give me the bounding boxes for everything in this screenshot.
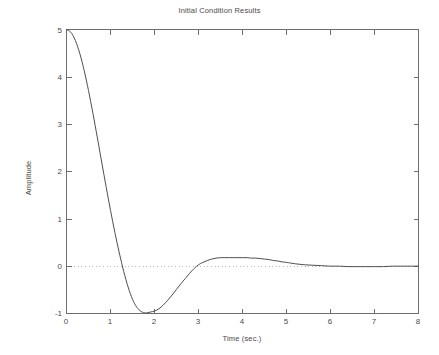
y-axis-ticks-left [67, 30, 72, 314]
y-tick-label: 2 [58, 167, 63, 176]
x-tick-label: 6 [328, 317, 333, 326]
y-tick-label: 4 [58, 73, 63, 82]
x-tick-label: 5 [284, 317, 289, 326]
x-axis-ticks-bottom [67, 309, 419, 314]
y-tick-label: -1 [55, 309, 63, 318]
x-axis-tick-labels: 0 1 2 3 4 5 6 7 8 [64, 317, 421, 326]
y-tick-label: 5 [58, 26, 63, 35]
figure-container: Initial Condition Results [0, 0, 439, 355]
data-series-line [67, 30, 419, 314]
x-tick-label: 7 [372, 317, 377, 326]
y-axis-tick-labels: -1 0 1 2 3 4 5 [55, 26, 63, 318]
y-tick-label: 3 [58, 120, 63, 129]
x-tick-label: 8 [416, 317, 421, 326]
y-tick-label: 1 [58, 215, 63, 224]
y-tick-label: 0 [58, 262, 63, 271]
chart-plot-area: 0 1 2 3 4 5 6 7 8 -1 0 1 2 3 4 5 Time (s… [0, 0, 439, 355]
x-axis-title: Time (sec.) [223, 334, 262, 343]
x-tick-label: 1 [108, 317, 113, 326]
y-axis-ticks-right [414, 78, 419, 267]
x-axis-ticks-top [111, 30, 375, 35]
x-tick-label: 3 [196, 317, 201, 326]
x-tick-label: 0 [64, 317, 69, 326]
y-axis-title: Amplitude [24, 161, 33, 196]
x-tick-label: 2 [152, 317, 157, 326]
x-tick-label: 4 [240, 317, 245, 326]
plot-frame [67, 30, 419, 314]
